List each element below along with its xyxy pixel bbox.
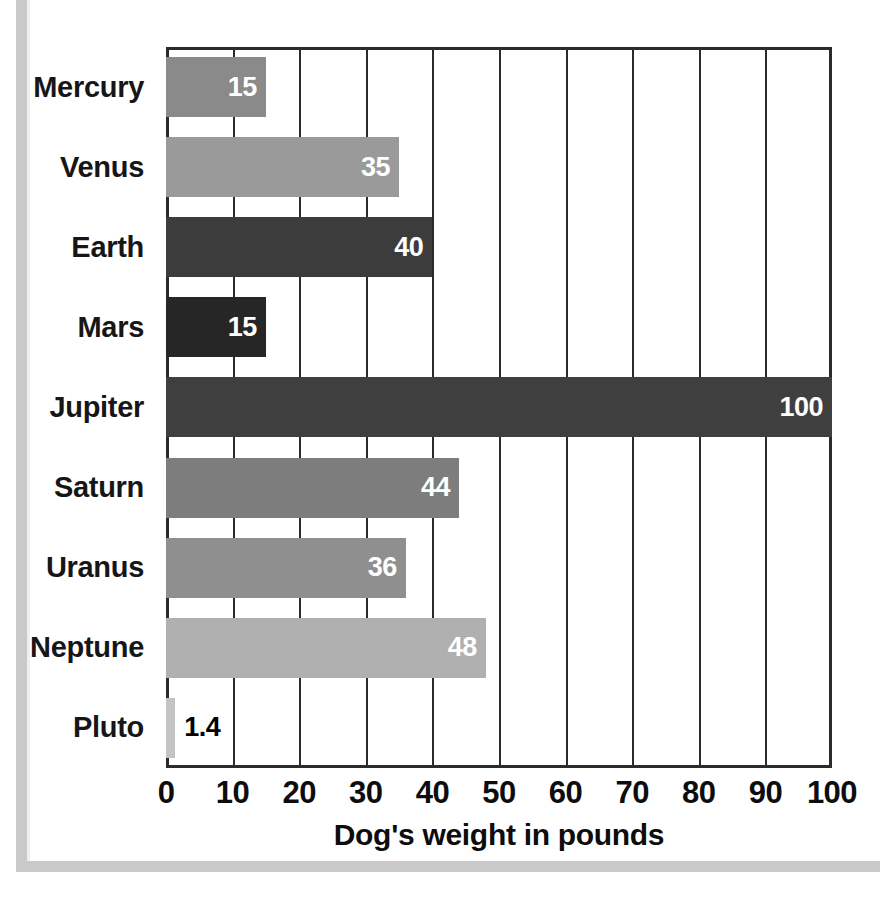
- category-label-mars: Mars: [0, 287, 154, 367]
- bar-row: 36: [166, 528, 832, 608]
- bar-earth[interactable]: 40: [166, 217, 432, 277]
- x-tick-50: 50: [482, 775, 515, 811]
- x-axis-title: Dog's weight in pounds: [166, 818, 832, 852]
- x-tick-30: 30: [349, 775, 382, 811]
- bar-value-label: 15: [228, 314, 266, 341]
- category-label-jupiter: Jupiter: [0, 367, 154, 447]
- x-tick-80: 80: [682, 775, 715, 811]
- x-tick-60: 60: [549, 775, 582, 811]
- category-label-pluto: Pluto: [0, 688, 154, 768]
- bar-value-label: 44: [421, 474, 459, 501]
- bar-row: 48: [166, 608, 832, 688]
- bar-value-label: 15: [228, 74, 266, 101]
- bar-saturn[interactable]: 44: [166, 458, 459, 518]
- bar-value-label: 48: [448, 634, 486, 661]
- category-label-saturn: Saturn: [0, 448, 154, 528]
- category-label-uranus: Uranus: [0, 528, 154, 608]
- bar-value-label: 36: [368, 554, 406, 581]
- category-label-mercury: Mercury: [0, 47, 154, 127]
- bar-value-label: 40: [394, 234, 432, 261]
- bar-row: 35: [166, 127, 832, 207]
- bars-container: 153540151004436481.4: [166, 47, 832, 768]
- bar-row: 40: [166, 207, 832, 287]
- category-label-earth: Earth: [0, 207, 154, 287]
- bar-row: 100: [166, 367, 832, 447]
- bar-row: 1.4: [166, 688, 832, 768]
- x-tick-0: 0: [158, 775, 175, 811]
- x-tick-40: 40: [416, 775, 449, 811]
- bar-row: 15: [166, 287, 832, 367]
- bar-neptune[interactable]: 48: [166, 618, 486, 678]
- bar-venus[interactable]: 35: [166, 137, 399, 197]
- x-axis-tick-labels: 0102030405060708090100: [166, 775, 832, 815]
- bar-value-label: 1.4: [175, 714, 220, 741]
- x-tick-20: 20: [282, 775, 315, 811]
- bar-value-label: 100: [779, 394, 832, 421]
- bar-row: 44: [166, 448, 832, 528]
- bar-mercury[interactable]: 15: [166, 57, 266, 117]
- category-label-neptune: Neptune: [0, 608, 154, 688]
- bar-chart: 153540151004436481.4 MercuryVenusEarthMa…: [0, 0, 880, 905]
- category-label-venus: Venus: [0, 127, 154, 207]
- x-tick-70: 70: [615, 775, 648, 811]
- x-tick-90: 90: [749, 775, 782, 811]
- category-axis-labels: MercuryVenusEarthMarsJupiterSaturnUranus…: [0, 47, 154, 768]
- x-tick-10: 10: [216, 775, 249, 811]
- bar-pluto[interactable]: 1.4: [166, 698, 175, 758]
- bar-uranus[interactable]: 36: [166, 538, 406, 598]
- bar-row: 15: [166, 47, 832, 127]
- bar-mars[interactable]: 15: [166, 297, 266, 357]
- x-tick-100: 100: [807, 775, 857, 811]
- bar-jupiter[interactable]: 100: [166, 377, 832, 437]
- bar-value-label: 35: [361, 154, 399, 181]
